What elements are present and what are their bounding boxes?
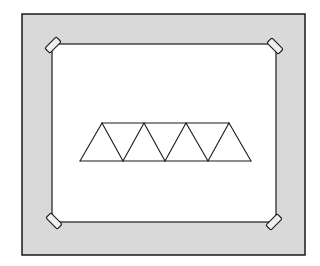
diagram-canvas: [0, 0, 320, 266]
truss-frame-diagram: [0, 0, 320, 266]
inner-sheet: [52, 44, 276, 222]
